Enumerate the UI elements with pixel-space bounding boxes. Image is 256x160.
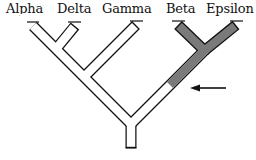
arrow-icon [190,85,226,92]
tree-fill [33,26,206,147]
branch-tips [20,14,250,22]
highlighted-clade [170,26,235,85]
branch-tip-edges [27,21,243,22]
cladogram-tree [0,0,256,160]
